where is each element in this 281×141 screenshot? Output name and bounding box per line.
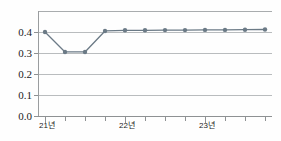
data-point <box>83 50 87 54</box>
data-point <box>103 29 107 33</box>
data-point <box>203 28 207 32</box>
series-layer <box>0 0 281 141</box>
series-line <box>45 29 265 51</box>
data-point <box>263 27 267 31</box>
data-point <box>183 28 187 32</box>
series-markers <box>43 27 267 54</box>
data-point <box>223 28 227 32</box>
line-chart: 0.4 0.3 0.2 0.1 0.0 21년 22년 23년 <box>0 0 281 141</box>
data-point <box>143 28 147 32</box>
data-point <box>163 28 167 32</box>
data-point <box>243 27 247 31</box>
data-point <box>43 30 47 34</box>
data-point <box>123 28 127 32</box>
data-point <box>63 50 67 54</box>
